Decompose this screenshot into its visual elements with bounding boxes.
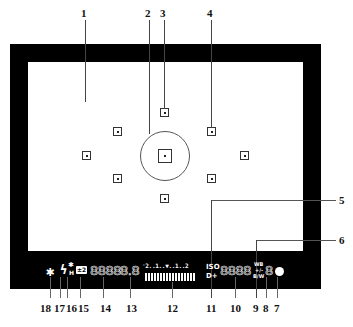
callout-label-3: 3 — [160, 8, 166, 19]
callout-label-7: 7 — [274, 303, 280, 314]
focus-confirmation-light — [275, 267, 284, 276]
burst-digit: 8 — [265, 264, 273, 277]
af-point-bottom — [160, 194, 169, 203]
callout-label-9: 9 — [253, 303, 259, 314]
callout-label-16: 16 — [66, 303, 77, 314]
shutter-speed-digits: 8888 — [90, 264, 121, 277]
af-point-center — [158, 149, 172, 163]
af-point-right — [240, 151, 249, 160]
callout-label-8: 8 — [263, 303, 269, 314]
bw-label: B/W — [253, 274, 264, 279]
aperture-digits: 8.8 — [120, 264, 139, 277]
callout-line-5-h — [211, 200, 336, 201]
callout-label-4: 4 — [207, 8, 213, 19]
hss-icon-top: ✱ — [68, 262, 74, 269]
callout-label-10: 10 — [230, 303, 241, 314]
fec-badge: ±2 — [76, 266, 87, 274]
callout-line-1 — [85, 20, 86, 102]
af-point-top — [160, 108, 169, 117]
callout-label-1: 1 — [81, 8, 87, 19]
callout-label-15: 15 — [78, 303, 89, 314]
callout-label-14: 14 — [100, 303, 111, 314]
callout-line-16 — [67, 277, 68, 298]
iso-indicator: ISO — [206, 264, 220, 271]
callout-line-15 — [80, 277, 81, 298]
callout-line-7 — [277, 277, 278, 298]
callout-line-2 — [149, 20, 150, 134]
flash-ready-icon: ϟ — [60, 264, 67, 276]
callout-label-5: 5 — [339, 195, 345, 206]
callout-line-12 — [172, 282, 173, 298]
callout-line-5-v — [211, 200, 212, 298]
callout-label-2: 2 — [145, 8, 151, 19]
af-point-left — [82, 151, 91, 160]
af-point-lower-left — [113, 174, 122, 183]
callout-line-18 — [50, 277, 51, 298]
af-point-upper-right — [207, 127, 216, 136]
callout-label-13: 13 — [126, 303, 137, 314]
callout-line-3 — [164, 20, 165, 109]
callout-label-12: 12 — [167, 303, 178, 314]
callout-label-17: 17 — [54, 303, 65, 314]
dplus-indicator: D+ — [206, 273, 218, 280]
af-point-lower-right — [207, 174, 216, 183]
callout-line-17 — [60, 277, 61, 298]
exposure-level-bars — [145, 273, 195, 281]
callout-label-6: 6 — [339, 235, 345, 246]
callout-line-8 — [266, 277, 267, 298]
callout-line-4 — [211, 20, 212, 128]
callout-line-13 — [130, 277, 131, 298]
ae-lock-icon: ✱ — [46, 264, 54, 278]
callout-label-18: 18 — [40, 303, 51, 314]
iso-digits: 8888 — [220, 264, 251, 277]
callout-line-10 — [235, 277, 236, 298]
hss-icon-bottom: H — [69, 270, 74, 276]
exposure-scale-ticks: ⁻2..1..▼..1..2 — [142, 263, 188, 269]
callout-line-14 — [103, 277, 104, 298]
callout-line-6-h — [256, 240, 336, 241]
af-point-upper-left — [113, 127, 122, 136]
callout-label-11: 11 — [206, 303, 216, 314]
